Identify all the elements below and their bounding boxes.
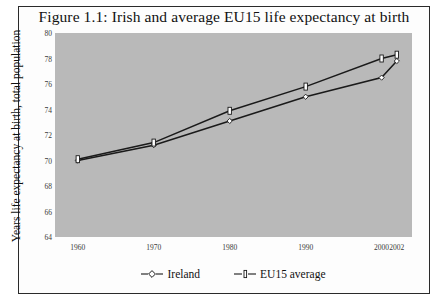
data-point-ireland-1990 xyxy=(303,94,308,99)
x-axis-tick-1980: 1980 xyxy=(222,243,237,252)
open-diamond-marker-icon xyxy=(141,269,163,279)
data-point-eu15-average-2000 xyxy=(380,55,383,62)
data-point-eu15-average-1990 xyxy=(304,83,307,90)
data-point-ireland-1980 xyxy=(227,118,232,123)
y-axis-tick-72: 72 xyxy=(26,131,52,140)
data-point-eu15-average-1980 xyxy=(228,107,231,114)
y-axis-tick-76: 76 xyxy=(26,80,52,89)
y-axis-tick-66: 66 xyxy=(26,207,52,216)
x-axis-tick-1990: 1990 xyxy=(298,243,313,252)
legend-label-eu15-average: EU15 average xyxy=(260,268,325,280)
series-line-eu15-average xyxy=(78,55,397,160)
y-axis-tick-78: 78 xyxy=(26,54,52,63)
data-point-eu15-average-1970 xyxy=(152,139,155,146)
figure-title: Figure 1.1: Irish and average EU15 life … xyxy=(18,8,430,26)
legend-label-ireland: Ireland xyxy=(167,268,200,280)
y-axis-tick-74: 74 xyxy=(26,105,52,114)
y-axis-tick-68: 68 xyxy=(26,182,52,191)
y-axis-tick-70: 70 xyxy=(26,156,52,165)
x-axis-tick-2002: 2002 xyxy=(389,243,404,252)
y-axis-tick-64: 64 xyxy=(26,233,52,242)
plot-area xyxy=(55,33,412,237)
legend-item-ireland: Ireland xyxy=(141,268,200,280)
y-axis-tick-labels: 646668707274767880 xyxy=(22,0,52,302)
vertical-bar-marker-icon xyxy=(234,269,256,279)
chart-series-layer xyxy=(55,33,412,237)
x-axis-tick-2000: 2000 xyxy=(374,243,389,252)
data-point-eu15-average-2002 xyxy=(395,51,398,58)
y-axis-tick-80: 80 xyxy=(26,29,52,38)
data-point-eu15-average-1960 xyxy=(76,156,79,163)
y-axis-title: Years life expectancy at birth, total po… xyxy=(10,26,22,246)
legend-item-eu15-average: EU15 average xyxy=(234,268,325,280)
x-axis-tick-1960: 1960 xyxy=(70,243,85,252)
series-line-ireland xyxy=(78,61,397,160)
x-axis-tick-1970: 1970 xyxy=(146,243,161,252)
chart-legend: Ireland EU15 average xyxy=(55,268,412,280)
